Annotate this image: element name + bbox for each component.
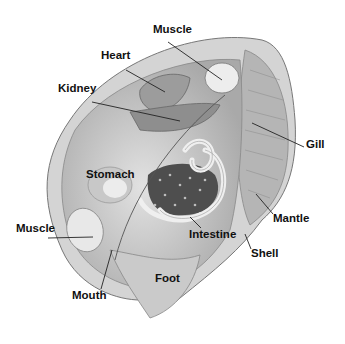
label-mouth: Mouth xyxy=(72,290,106,302)
label-kidney: Kidney xyxy=(58,83,96,95)
label-shell: Shell xyxy=(251,248,278,260)
label-stomach: Stomach xyxy=(86,169,135,181)
label-muscle-left: Muscle xyxy=(16,223,55,235)
clam-anatomy-diagram: Muscle Heart Kidney Gill Stomach Mantle … xyxy=(0,0,345,344)
digestive-gland xyxy=(148,164,219,216)
label-muscle-top: Muscle xyxy=(153,24,192,36)
label-gill: Gill xyxy=(306,139,325,151)
label-intestine: Intestine xyxy=(189,229,236,241)
label-foot: Foot xyxy=(155,273,180,285)
clam-illustration xyxy=(0,0,345,344)
top-muscle-organ xyxy=(205,63,239,93)
label-heart: Heart xyxy=(101,50,130,62)
label-mantle: Mantle xyxy=(273,213,309,225)
